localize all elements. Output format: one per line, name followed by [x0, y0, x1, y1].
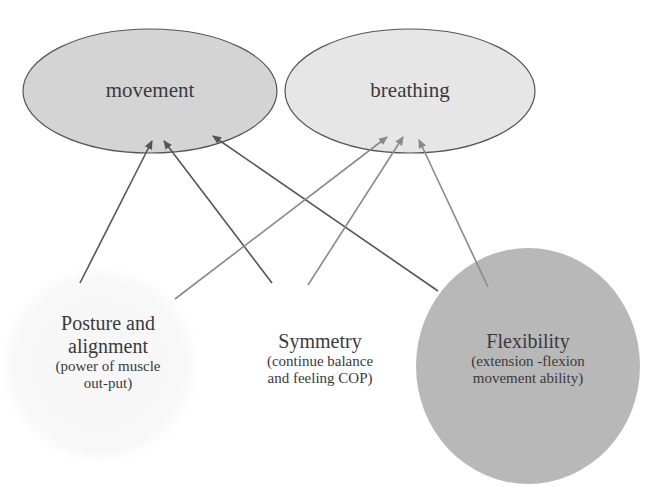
edge-posture-to-movement: [80, 141, 152, 283]
flexibility-title: Flexibility: [430, 330, 626, 353]
symmetry-title: Symmetry: [238, 330, 402, 353]
edge-posture-to-breathing: [175, 137, 387, 299]
symmetry-node-label: Symmetry (continue balance and feeling C…: [238, 330, 402, 388]
diagram-canvas: [0, 0, 656, 486]
movement-node-label: movement: [50, 78, 250, 102]
edge-flexibility-to-movement: [213, 136, 438, 291]
posture-node-label: Posture and alignment (power of muscle o…: [18, 312, 198, 393]
posture-subtitle-line2: out-put): [18, 375, 198, 392]
symmetry-subtitle-line2: and feeling COP): [238, 370, 402, 387]
edge-symmetry-to-movement: [164, 141, 272, 283]
flexibility-subtitle-line2: movement ability): [430, 370, 626, 387]
posture-subtitle-line1: (power of muscle: [18, 358, 198, 375]
posture-title-line1: Posture and: [18, 312, 198, 335]
breathing-node-label: breathing: [310, 78, 510, 102]
posture-title-line2: alignment: [18, 335, 198, 358]
symmetry-subtitle-line1: (continue balance: [238, 353, 402, 370]
flexibility-subtitle-line1: (extension -flexion: [430, 353, 626, 370]
edge-flexibility-to-breathing: [419, 140, 488, 287]
flexibility-node-label: Flexibility (extension -flexion movement…: [430, 330, 626, 388]
